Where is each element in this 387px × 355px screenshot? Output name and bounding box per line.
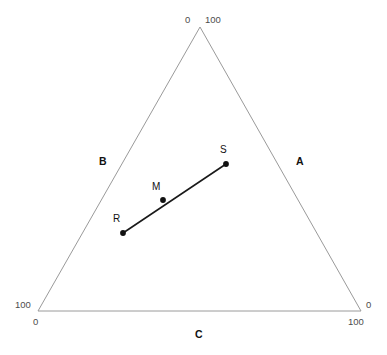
data-point-s[interactable] (223, 161, 229, 167)
tie-line-r-s (123, 164, 226, 233)
scale-label-bottom-right-upper: 0 (366, 300, 371, 310)
data-point-m[interactable] (160, 197, 166, 203)
ternary-diagram-figure: 0 100 100 0 0 100 A B C R M S (0, 0, 387, 355)
ternary-plot-svg (0, 0, 387, 355)
triangle-outline (38, 27, 361, 311)
scale-label-bottom-left-upper: 100 (15, 300, 31, 310)
point-label-m: M (152, 182, 160, 192)
scale-label-apex-left: 0 (185, 15, 190, 25)
point-label-r: R (113, 214, 120, 224)
axis-label-c: C (195, 329, 203, 340)
axis-label-b: B (99, 156, 107, 167)
axis-label-a: A (296, 156, 304, 167)
point-label-s: S (220, 145, 227, 155)
scale-label-apex-right: 100 (205, 15, 221, 25)
scale-label-bottom-right-lower: 100 (348, 317, 364, 327)
scale-label-bottom-left-lower: 0 (33, 317, 38, 327)
data-point-r[interactable] (120, 230, 126, 236)
